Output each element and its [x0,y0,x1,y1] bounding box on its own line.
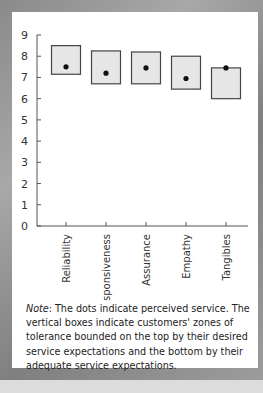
zone-of-tolerance-chart: 0123456789ReliabilityResponsivenessAssur… [0,0,263,300]
y-tick-label: 1 [21,199,28,212]
x-tick-label: Assurance [141,234,152,286]
tolerance-box [212,68,241,99]
y-tick-label: 2 [21,178,28,191]
y-tick-label: 8 [21,50,28,63]
y-tick-label: 3 [21,156,28,169]
perceived-service-dot [63,64,68,69]
tolerance-box [52,46,81,75]
x-tick-label: Responsiveness [101,234,112,300]
y-tick-label: 7 [21,71,28,84]
note-text: : The dots indicate perceived service. T… [26,303,250,371]
y-tick-label: 0 [21,220,28,233]
x-tick-label: Tangibles [221,234,232,282]
perceived-service-dot [183,76,188,81]
page-background [0,380,263,393]
chart-note: Note: The dots indicate perceived servic… [26,302,254,373]
tolerance-box [92,51,121,84]
y-tick-label: 5 [21,114,28,127]
perceived-service-dot [143,65,148,70]
y-tick-label: 9 [21,29,28,42]
tolerance-box [172,56,201,89]
perceived-service-dot [103,71,108,76]
x-tick-label: Empathy [181,234,192,279]
x-tick-label: Reliability [61,234,72,283]
perceived-service-dot [223,65,228,70]
note-label: Note [26,303,49,314]
y-tick-label: 4 [21,135,28,148]
y-tick-label: 6 [21,93,28,106]
